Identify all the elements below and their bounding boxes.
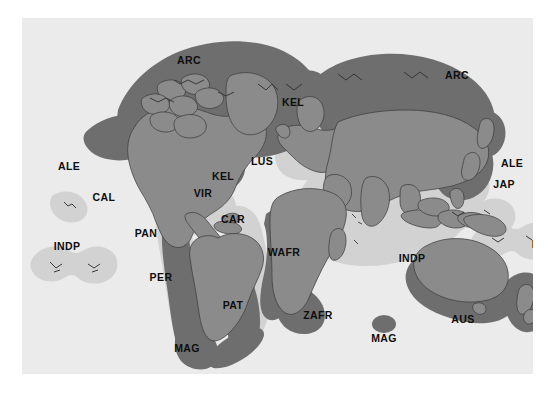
world-map-graphic	[22, 18, 533, 374]
world-map-panel: ARC ARC KEL ALE ALE LUS JAP KEL CAL VIR …	[22, 18, 533, 374]
figure-root: ARC ARC KEL ALE ALE LUS JAP KEL CAL VIR …	[0, 0, 556, 396]
